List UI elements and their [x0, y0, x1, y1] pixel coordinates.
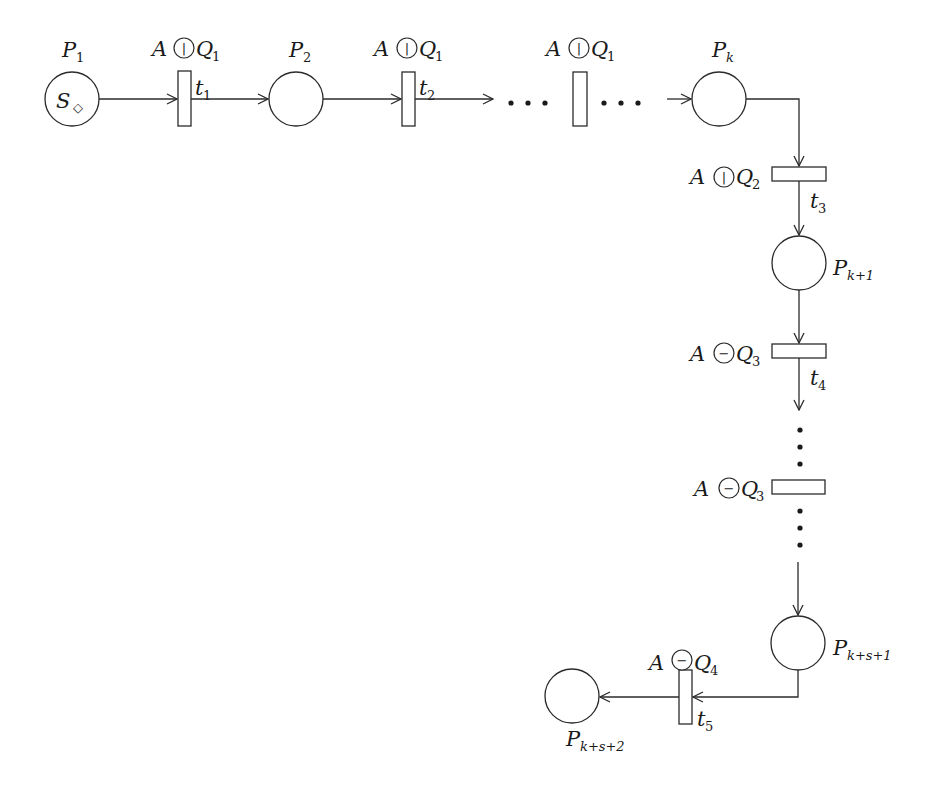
guard-left: A: [647, 651, 664, 675]
guard-subscript: 3: [752, 354, 760, 369]
place-subscript: 2: [303, 50, 311, 65]
place-subscript: k+s+1: [847, 648, 892, 663]
ellipsis-bottom: [797, 508, 802, 547]
petri-net-diagram: S ◇ P 1 A | Q 1 t 1 P 2 A | Q 1 t 2: [0, 0, 941, 792]
arc-pk-t3: [746, 99, 799, 166]
guard-op: −: [677, 653, 688, 668]
guard-op: −: [724, 481, 735, 496]
guard-subscript: 3: [756, 489, 764, 504]
transition-subscript: 3: [818, 201, 826, 216]
place-label: P: [832, 636, 848, 660]
transition-generic-horizontal: A | Q 1: [544, 37, 615, 126]
transition-subscript: 2: [427, 88, 435, 103]
place-pk: P k: [692, 38, 746, 126]
transition-t1: A | Q 1 t 1: [150, 37, 220, 126]
place-subscript: k: [726, 50, 734, 65]
guard-op: |: [182, 41, 186, 56]
guard-subscript: 1: [212, 49, 220, 64]
transition-t3: A | Q 2 t 3: [688, 165, 826, 216]
guard-left: A: [692, 477, 709, 501]
ellipsis-right: [601, 100, 640, 105]
guard-subscript: 1: [435, 49, 443, 64]
place-subscript: 1: [76, 50, 84, 65]
place-subscript: k+1: [847, 268, 874, 283]
place-label: P: [565, 727, 581, 751]
place-pks1: P k+s+1: [771, 616, 892, 670]
guard-left: A: [688, 342, 705, 366]
guard-right: Q: [736, 165, 753, 189]
place-label: P: [832, 256, 848, 280]
transition-t2: A | Q 1 t 2: [372, 37, 443, 126]
guard-subscript: 2: [752, 177, 760, 192]
token-label: S: [56, 89, 70, 113]
guard-left: A: [544, 37, 561, 61]
transition-t4: A − Q 3 t 4: [688, 342, 826, 393]
place-pk1: P k+1: [772, 236, 874, 290]
guard-op: |: [577, 41, 581, 56]
guard-right: Q: [196, 37, 213, 61]
transition-subscript: 1: [203, 88, 211, 103]
transition-generic-vertical: A − Q 3: [692, 477, 825, 504]
diamond-icon: ◇: [73, 100, 83, 115]
place-pks2: P k+s+2: [545, 669, 625, 754]
guard-op: |: [405, 41, 409, 56]
guard-op: −: [719, 346, 730, 361]
guard-left: A: [688, 165, 705, 189]
guard-left: A: [150, 37, 167, 61]
guard-right: Q: [694, 651, 711, 675]
transition-subscript: 4: [818, 378, 826, 393]
transition-t5: A − Q 4 t 5: [647, 650, 718, 734]
guard-right: Q: [736, 342, 753, 366]
place-label: P: [61, 38, 77, 62]
ellipsis-top: [797, 427, 802, 466]
place-p1: S ◇ P 1: [45, 38, 99, 126]
place-subscript: k+s+2: [580, 739, 625, 754]
guard-subscript: 4: [710, 663, 718, 678]
guard-left: A: [372, 37, 389, 61]
place-label: P: [288, 38, 304, 62]
place-p2: P 2: [269, 38, 323, 126]
guard-right: Q: [419, 37, 436, 61]
ellipsis-left: [508, 100, 547, 105]
place-label: P: [711, 38, 727, 62]
guard-subscript: 1: [607, 49, 615, 64]
guard-op: |: [722, 170, 726, 185]
transition-subscript: 5: [705, 719, 713, 734]
guard-right: Q: [591, 37, 608, 61]
